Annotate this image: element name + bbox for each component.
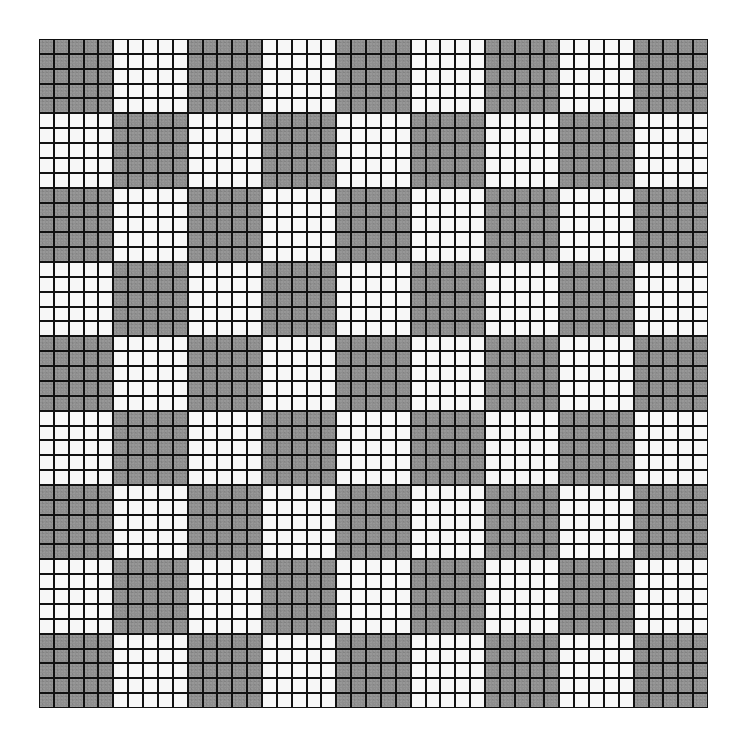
- dark-cell: [427, 114, 440, 127]
- light-cell: [204, 129, 217, 142]
- dark-cell: [322, 322, 335, 335]
- dark-cell: [679, 99, 692, 112]
- dark-cell: [441, 263, 454, 276]
- light-cell: [159, 204, 172, 217]
- dark-cell: [352, 516, 365, 529]
- dark-cell: [664, 337, 677, 350]
- dark-cell: [531, 531, 544, 544]
- dark-cell: [694, 501, 707, 514]
- light-cell: [204, 590, 217, 603]
- light-cell: [456, 189, 469, 202]
- dark-cell: [85, 531, 98, 544]
- light-cell: [233, 308, 246, 321]
- light-cell: [501, 144, 514, 157]
- light-cell: [70, 412, 83, 425]
- light-cell: [278, 650, 291, 663]
- dark-cell: [694, 233, 707, 246]
- dark-cell: [278, 456, 291, 469]
- dark-cell: [694, 204, 707, 217]
- light-cell: [650, 263, 663, 276]
- light-cell: [575, 233, 588, 246]
- light-cell: [159, 679, 172, 692]
- dark-cell: [441, 605, 454, 618]
- light-cell: [650, 129, 663, 142]
- light-cell: [263, 501, 276, 514]
- light-cell: [99, 441, 112, 454]
- dark-cell: [278, 278, 291, 291]
- dark-cell: [40, 486, 53, 499]
- dark-cell: [55, 218, 68, 231]
- dark-cell: [40, 635, 53, 648]
- light-cell: [129, 352, 142, 365]
- light-cell: [635, 575, 648, 588]
- dark-cell: [233, 486, 246, 499]
- light-cell: [248, 471, 261, 484]
- dark-cell: [159, 620, 172, 633]
- dark-cell: [174, 322, 187, 335]
- dark-cell: [204, 204, 217, 217]
- light-cell: [635, 159, 648, 172]
- light-cell: [99, 605, 112, 618]
- light-cell: [204, 575, 217, 588]
- dark-cell: [501, 635, 514, 648]
- light-cell: [278, 635, 291, 648]
- light-cell: [664, 471, 677, 484]
- dark-cell: [99, 70, 112, 83]
- dark-cell: [55, 55, 68, 68]
- dark-cell: [501, 352, 514, 365]
- dark-cell: [99, 218, 112, 231]
- light-cell: [382, 308, 395, 321]
- dark-cell: [679, 70, 692, 83]
- light-cell: [263, 99, 276, 112]
- dark-cell: [218, 204, 231, 217]
- dark-cell: [471, 174, 484, 187]
- dark-cell: [650, 337, 663, 350]
- dark-cell: [590, 308, 603, 321]
- light-cell: [412, 501, 425, 514]
- light-cell: [679, 278, 692, 291]
- light-cell: [560, 545, 573, 558]
- dark-cell: [382, 679, 395, 692]
- dark-cell: [85, 189, 98, 202]
- dark-cell: [99, 367, 112, 380]
- light-cell: [337, 620, 350, 633]
- dark-cell: [293, 159, 306, 172]
- light-cell: [650, 174, 663, 187]
- dark-cell: [55, 679, 68, 692]
- light-cell: [174, 486, 187, 499]
- dark-cell: [159, 427, 172, 440]
- light-cell: [441, 218, 454, 231]
- dark-cell: [218, 189, 231, 202]
- light-cell: [174, 516, 187, 529]
- dark-cell: [441, 620, 454, 633]
- light-cell: [144, 635, 157, 648]
- light-cell: [694, 308, 707, 321]
- light-cell: [382, 620, 395, 633]
- light-cell: [114, 397, 127, 410]
- light-cell: [308, 531, 321, 544]
- dark-cell: [70, 501, 83, 514]
- dark-cell: [679, 635, 692, 648]
- light-cell: [560, 694, 573, 707]
- dark-cell: [263, 159, 276, 172]
- dark-cell: [650, 352, 663, 365]
- light-cell: [456, 85, 469, 98]
- dark-cell: [55, 694, 68, 707]
- light-cell: [605, 204, 618, 217]
- light-cell: [664, 174, 677, 187]
- light-cell: [293, 501, 306, 514]
- dark-cell: [412, 560, 425, 573]
- dark-cell: [99, 516, 112, 529]
- dark-cell: [114, 620, 127, 633]
- dark-cell: [144, 293, 157, 306]
- light-cell: [337, 159, 350, 172]
- light-cell: [278, 55, 291, 68]
- light-cell: [560, 486, 573, 499]
- dark-cell: [679, 516, 692, 529]
- light-cell: [189, 144, 202, 157]
- light-cell: [308, 204, 321, 217]
- light-cell: [278, 501, 291, 514]
- light-cell: [174, 337, 187, 350]
- light-cell: [129, 664, 142, 677]
- dark-cell: [144, 456, 157, 469]
